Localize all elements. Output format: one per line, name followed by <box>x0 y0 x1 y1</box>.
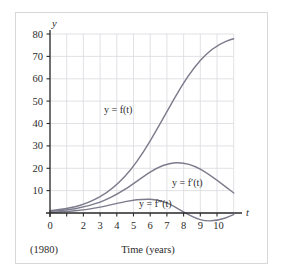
chart-figure: 80 70 60 50 40 30 20 10 0 2 3 4 5 6 7 8 … <box>0 0 282 276</box>
x-tick-label: 6 <box>148 220 153 231</box>
curve-f <box>50 39 234 211</box>
y-tick-label: 50 <box>33 96 44 107</box>
y-tick-label: 40 <box>33 118 44 129</box>
curve-label-f-prime: y = f′(t) <box>172 177 203 189</box>
curve-label-f: y = f(t) <box>104 104 132 116</box>
x-tick-label: 3 <box>97 220 102 231</box>
x-tick-label: 8 <box>181 220 186 231</box>
y-tick-label: 70 <box>33 51 44 62</box>
y-axis-name-label: y <box>51 18 57 29</box>
x-tick-label: 10 <box>213 220 224 231</box>
y-tick-label: 80 <box>33 29 44 40</box>
x-tick-label: 9 <box>198 220 203 231</box>
y-tick-label: 30 <box>33 140 44 151</box>
curve-label-f-double-prime: y = f″(t) <box>139 198 172 210</box>
x-tick-label: 0 <box>47 220 52 231</box>
plot-area: 80 70 60 50 40 30 20 10 0 2 3 4 5 6 7 8 … <box>0 0 282 276</box>
x-tick-label: 7 <box>164 220 169 231</box>
x-tick-label: 5 <box>131 220 136 231</box>
grid-horizontal <box>50 34 234 213</box>
y-tick-label: 10 <box>33 185 44 196</box>
data-curves <box>50 39 234 221</box>
y-tick-labels: 80 70 60 50 40 30 20 10 <box>33 29 44 197</box>
grid-lines <box>50 34 234 213</box>
y-tick-label: 60 <box>33 73 44 84</box>
x-axis-title: Time (years) <box>121 244 175 256</box>
x-tick-label: 4 <box>114 220 120 231</box>
x-tick-labels: 0 2 3 4 5 6 7 8 9 10 <box>47 220 223 231</box>
x-tick-label: 2 <box>81 220 86 231</box>
x-axis-name-label: t <box>246 207 250 218</box>
origin-year-note: (1980) <box>30 244 58 256</box>
y-tick-label: 20 <box>33 163 44 174</box>
